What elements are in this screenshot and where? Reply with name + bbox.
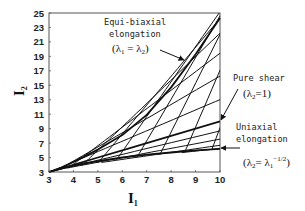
x-tick-label: 10 (215, 174, 226, 185)
invariant-plane-chart: 345678910 35791113151719212325 I1 I2 Equ… (0, 0, 305, 211)
svg-text:elongation: elongation (236, 134, 288, 144)
x-tick-label: 7 (144, 174, 149, 185)
x-axis-title: I1 (128, 190, 138, 208)
y-axis-title: I2 (11, 86, 29, 96)
y-tick-label: 17 (33, 65, 44, 76)
y-axis-ticks: 35791113151719212325 (33, 8, 51, 178)
x-tick-label: 8 (168, 174, 173, 185)
y-tick-label: 21 (33, 36, 44, 47)
x-tick-label: 5 (95, 174, 101, 185)
y-tick-label: 23 (33, 22, 44, 33)
x-tick-label: 4 (71, 174, 77, 185)
x-tick-label: 3 (46, 174, 51, 185)
annotation-pure-shear: Pure shear (λ2=1) (221, 73, 285, 120)
y-tick-label: 9 (39, 123, 44, 134)
arrow-equibiaxial (160, 50, 184, 60)
annotation-uniaxial: Uniaxial elongation (λ2= λ1−1/2) (221, 122, 290, 170)
arrow-pure-shear (221, 89, 238, 120)
svg-text:Pure shear: Pure shear (233, 73, 285, 83)
svg-text:(λ1 = λ2): (λ1 = λ2) (112, 42, 149, 56)
x-tick-label: 9 (193, 174, 198, 185)
svg-text:Equi-biaxial: Equi-biaxial (104, 17, 166, 27)
crosshatch-region (52, 0, 305, 171)
y-tick-label: 13 (33, 94, 44, 105)
y-tick-label: 15 (33, 80, 44, 91)
svg-text:(λ2= λ1−1/2): (λ2= λ1−1/2) (243, 155, 290, 170)
annotation-equibiaxial: Equi-biaxial elongation (λ1 = λ2) (104, 17, 184, 60)
x-tick-label: 6 (120, 174, 125, 185)
y-tick-label: 19 (33, 51, 44, 62)
y-tick-label: 3 (39, 167, 44, 178)
y-tick-label: 25 (33, 8, 44, 19)
svg-text:Uniaxial: Uniaxial (236, 122, 277, 132)
svg-text:elongation: elongation (109, 29, 161, 39)
y-tick-label: 5 (39, 152, 45, 163)
y-tick-label: 11 (34, 109, 45, 120)
y-tick-label: 7 (39, 138, 44, 149)
svg-text:(λ2=1): (λ2=1) (243, 87, 271, 101)
